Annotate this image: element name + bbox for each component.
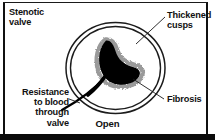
leader-line-thickened-cusps	[136, 17, 165, 44]
label-fibrosis: Fibrosis	[167, 94, 202, 104]
caption-open: Open	[0, 119, 215, 129]
label-stenotic-valve: Stenotic valve	[9, 7, 44, 27]
stenotic-valve-figure: Stenotic valve Thickened cusps Fibrosis …	[0, 0, 215, 140]
label-thickened-cusps: Thickened cusps	[167, 10, 211, 30]
blood-flow-resistance-line-taper	[88, 77, 105, 95]
